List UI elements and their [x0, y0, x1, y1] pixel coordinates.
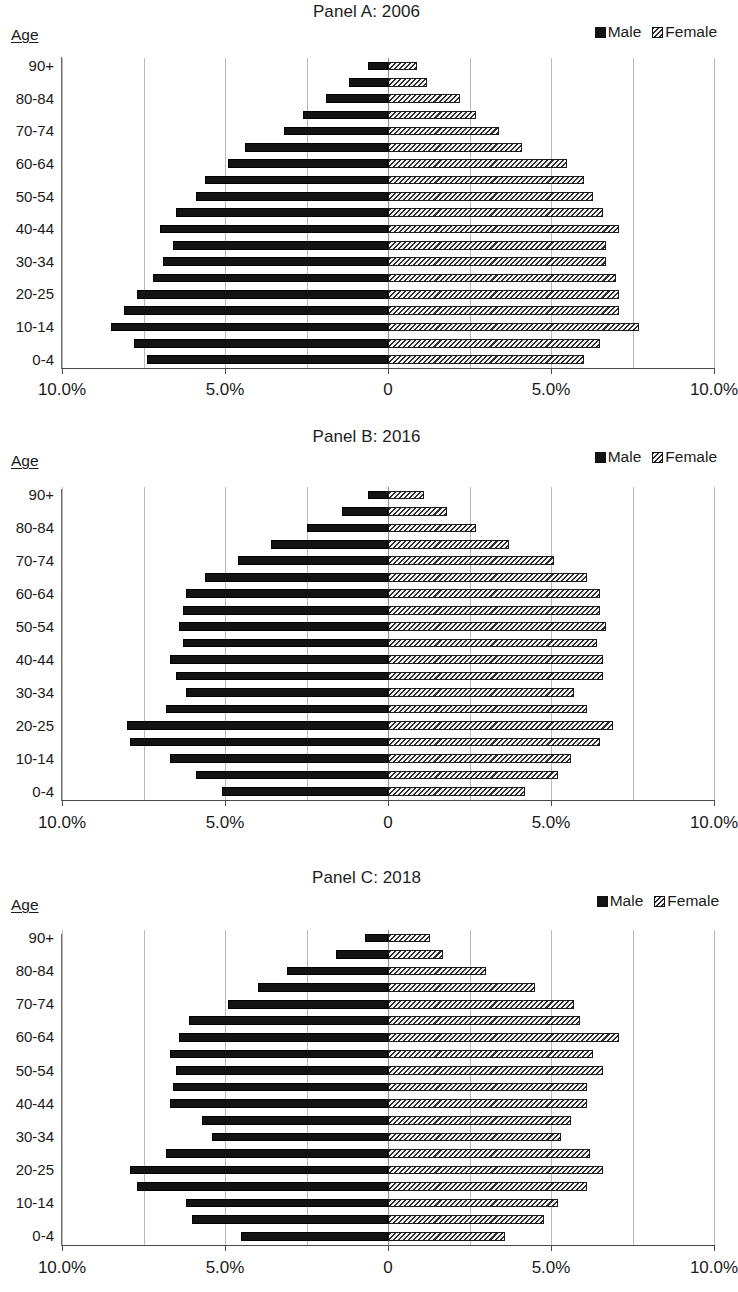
male-swatch-icon — [595, 452, 606, 463]
bar-row — [62, 107, 714, 123]
x-axis-tick-label: 5.0% — [206, 813, 245, 833]
bar-female — [388, 1166, 603, 1175]
bar-row — [62, 1063, 714, 1080]
y-axis-line — [61, 934, 62, 1246]
bar-row — [62, 156, 714, 172]
bar-female — [388, 1199, 558, 1208]
bar-female — [388, 754, 571, 763]
bar-male — [147, 355, 388, 364]
bar-female — [388, 556, 554, 565]
x-axis-tick — [714, 368, 715, 374]
x-axis-ticks — [0, 800, 733, 806]
y-axis-labels: 90+80-8470-7460-6450-5440-4430-3420-2510… — [0, 58, 58, 368]
bar-male — [170, 1099, 388, 1108]
legend-label-female: Female — [667, 892, 719, 910]
bar-female — [388, 738, 600, 747]
y-axis-tick-label: 10-14 — [16, 319, 54, 335]
x-axis-tick — [388, 1245, 389, 1251]
x-axis-tick-label: 0 — [383, 380, 392, 400]
bar-male — [196, 192, 388, 201]
x-axis-labels: 10.0%5.0%05.0%10.0% — [0, 380, 733, 404]
legend-label-male: Male — [610, 892, 644, 910]
bar-row — [62, 1129, 714, 1146]
male-swatch-icon — [595, 27, 606, 38]
bar-male — [166, 1149, 388, 1158]
x-axis-tick-label: 0 — [383, 1258, 392, 1278]
legend-item-female: Female — [652, 23, 717, 41]
x-axis-tick — [551, 368, 552, 374]
bar-female — [388, 507, 447, 516]
legend: Male Female — [597, 892, 719, 910]
bar-female — [388, 1099, 587, 1108]
bar-row — [62, 221, 714, 237]
bar-row — [62, 254, 714, 270]
y-axis-tick-label: 20-25 — [16, 286, 54, 302]
bar-female — [388, 1116, 571, 1125]
x-axis-tick — [551, 800, 552, 806]
bar-row — [62, 205, 714, 221]
x-axis-ticks — [0, 1245, 733, 1251]
plot-area — [62, 930, 714, 1245]
bar-male — [170, 1050, 388, 1059]
x-axis-tick-label: 5.0% — [532, 813, 571, 833]
y-axis-tick-label: 70-74 — [16, 123, 54, 139]
bar-male — [173, 1083, 388, 1092]
female-swatch-icon — [654, 896, 665, 907]
bar-female — [388, 257, 606, 266]
panel-c: Panel C: 2018 Male Female Age 90+80-8470… — [0, 860, 733, 1292]
bar-row — [62, 319, 714, 335]
bar-row — [62, 734, 714, 750]
bar-row — [62, 930, 714, 947]
y-axis-tick-label: 10-14 — [16, 1195, 54, 1212]
x-axis-tick-label: 5.0% — [206, 1258, 245, 1278]
bar-female — [388, 589, 600, 598]
bar-row — [62, 1013, 714, 1030]
plot-area — [62, 58, 714, 368]
age-axis-caption: Age — [11, 26, 39, 44]
bar-male — [183, 639, 388, 648]
bar-male — [212, 1133, 388, 1142]
bar-female — [388, 606, 600, 615]
bar-male — [196, 771, 388, 780]
y-axis-tick-label: 80-84 — [16, 91, 54, 107]
bar-row — [62, 503, 714, 519]
bar-male — [130, 1166, 388, 1175]
y-axis-labels: 90+80-8470-7460-6450-5440-4430-3420-2510… — [0, 487, 58, 800]
bar-row — [62, 286, 714, 302]
bar-row — [62, 996, 714, 1013]
bar-female — [388, 290, 619, 299]
x-axis-tick — [551, 1245, 552, 1251]
y-axis-tick-label: 30-34 — [16, 254, 54, 270]
bar-female — [388, 1016, 580, 1025]
bar-male — [205, 176, 388, 185]
x-axis-tick — [714, 800, 715, 806]
bar-female — [388, 1149, 590, 1158]
y-axis-tick-label: 40-44 — [16, 221, 54, 237]
bar-male — [186, 688, 388, 697]
bar-row — [62, 352, 714, 368]
male-swatch-icon — [597, 896, 608, 907]
gridline — [714, 930, 715, 1245]
bar-male — [153, 274, 388, 283]
bar-row — [62, 237, 714, 253]
bar-male — [160, 225, 388, 234]
bar-male — [179, 622, 388, 631]
bar-row — [62, 1046, 714, 1063]
bar-female — [388, 639, 597, 648]
x-axis-tick-label: 10.0% — [38, 1258, 86, 1278]
bar-female — [388, 62, 417, 71]
bar-female — [388, 967, 486, 976]
x-axis-ticks — [0, 368, 733, 374]
bar-row — [62, 569, 714, 585]
bar-female — [388, 208, 603, 217]
y-axis-labels: 90+80-8470-7460-6450-5440-4430-3420-2510… — [0, 930, 58, 1245]
legend-label-female: Female — [665, 23, 717, 41]
bar-row — [62, 602, 714, 618]
bar-female — [388, 1083, 587, 1092]
bar-row — [62, 767, 714, 783]
bar-male — [241, 1232, 388, 1241]
y-axis-tick-label: 50-54 — [16, 619, 54, 635]
bar-row — [62, 668, 714, 684]
bar-male — [137, 1182, 388, 1191]
bar-female — [388, 655, 603, 664]
